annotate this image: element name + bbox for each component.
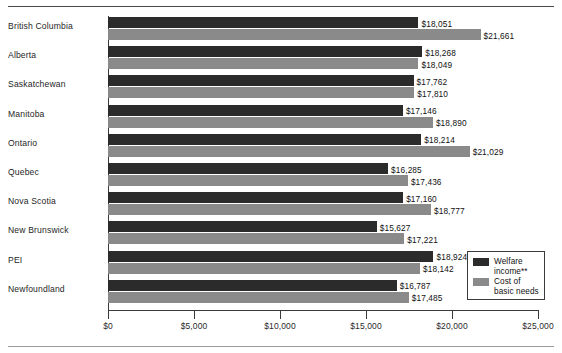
bar-welfare-income [108, 251, 433, 262]
legend-label-welfare-income: Welfare income** [494, 257, 528, 276]
x-axis-tick [366, 310, 367, 319]
x-axis-tick [194, 310, 195, 319]
bar-value-label: $18,051 [421, 19, 452, 29]
bar-welfare-income [108, 280, 397, 291]
x-axis-tick-label: $10,000 [264, 321, 295, 331]
welfare-income-vs-cost-of-basic-needs-chart: $0$5,000$10,000$15,000$20,000$25,000 Bri… [0, 0, 562, 353]
legend-swatch-welfare-income [473, 258, 489, 266]
bar-value-label: $17,221 [407, 235, 438, 245]
bar-value-label: $17,146 [406, 106, 437, 116]
bar-value-label: $21,029 [473, 147, 504, 157]
bar-cost-of-basic-needs [108, 233, 404, 244]
bar-welfare-income [108, 75, 414, 86]
category-label: Nova Scotia [8, 196, 104, 206]
bar-value-label: $17,160 [406, 194, 437, 204]
bar-welfare-income [108, 221, 377, 232]
bar-cost-of-basic-needs [108, 117, 433, 128]
bar-value-label: $18,777 [434, 206, 465, 216]
top-divider-rule [8, 6, 554, 7]
bar-value-label: $17,762 [417, 77, 448, 87]
x-axis-tick [280, 310, 281, 319]
category-label: PEI [8, 255, 104, 265]
category-label: New Brunswick [8, 225, 104, 235]
legend-label-cost-of-basic-needs: Cost of basic needs [494, 277, 539, 296]
x-axis-tick [108, 310, 109, 319]
bar-welfare-income [108, 46, 422, 57]
x-axis-tick [452, 310, 453, 319]
category-label: Saskatchewan [8, 79, 104, 89]
bar-cost-of-basic-needs [108, 204, 431, 215]
bottom-divider-rule [8, 346, 554, 347]
bar-value-label: $17,436 [411, 177, 442, 187]
bar-cost-of-basic-needs [108, 263, 420, 274]
bar-welfare-income [108, 17, 418, 28]
bar-welfare-income [108, 134, 421, 145]
bar-value-label: $18,142 [423, 264, 454, 274]
category-label: Alberta [8, 50, 104, 60]
category-label: Manitoba [8, 109, 104, 119]
bar-welfare-income [108, 192, 403, 203]
chart-legend: Welfare income** Cost of basic needs [467, 251, 545, 300]
category-label: British Columbia [8, 21, 104, 31]
bar-value-label: $18,268 [425, 48, 456, 58]
bar-value-label: $21,661 [484, 31, 515, 41]
legend-item-welfare-income: Welfare income** [473, 257, 528, 276]
x-axis-line [108, 310, 538, 311]
bar-cost-of-basic-needs [108, 58, 418, 69]
category-label: Quebec [8, 167, 104, 177]
bar-value-label: $17,485 [412, 293, 443, 303]
bar-cost-of-basic-needs [108, 292, 409, 303]
x-axis-tick-label: $25,000 [522, 321, 553, 331]
bar-value-label: $16,285 [391, 165, 422, 175]
bar-value-label: $18,214 [424, 135, 455, 145]
x-axis-tick-label: $5,000 [181, 321, 208, 331]
legend-swatch-cost-of-basic-needs [473, 278, 489, 286]
category-label: Ontario [8, 138, 104, 148]
x-axis-tick-label: $20,000 [436, 321, 467, 331]
bar-value-label: $18,049 [421, 60, 452, 70]
bar-value-label: $16,787 [400, 281, 431, 291]
legend-item-cost-of-basic-needs: Cost of basic needs [473, 277, 539, 296]
bar-value-label: $17,810 [417, 89, 448, 99]
category-label: Newfoundland [8, 284, 104, 294]
bar-cost-of-basic-needs [108, 29, 481, 40]
bar-value-label: $18,890 [436, 118, 467, 128]
x-axis-tick-label: $0 [103, 321, 113, 331]
x-axis-tick-label: $15,000 [350, 321, 381, 331]
bar-welfare-income [108, 163, 388, 174]
bar-cost-of-basic-needs [108, 146, 470, 157]
bar-value-label: $15,627 [380, 223, 411, 233]
bar-value-label: $18,924 [436, 252, 467, 262]
bar-cost-of-basic-needs [108, 87, 414, 98]
bar-welfare-income [108, 105, 403, 116]
bar-cost-of-basic-needs [108, 175, 408, 186]
x-axis-tick [538, 310, 539, 319]
